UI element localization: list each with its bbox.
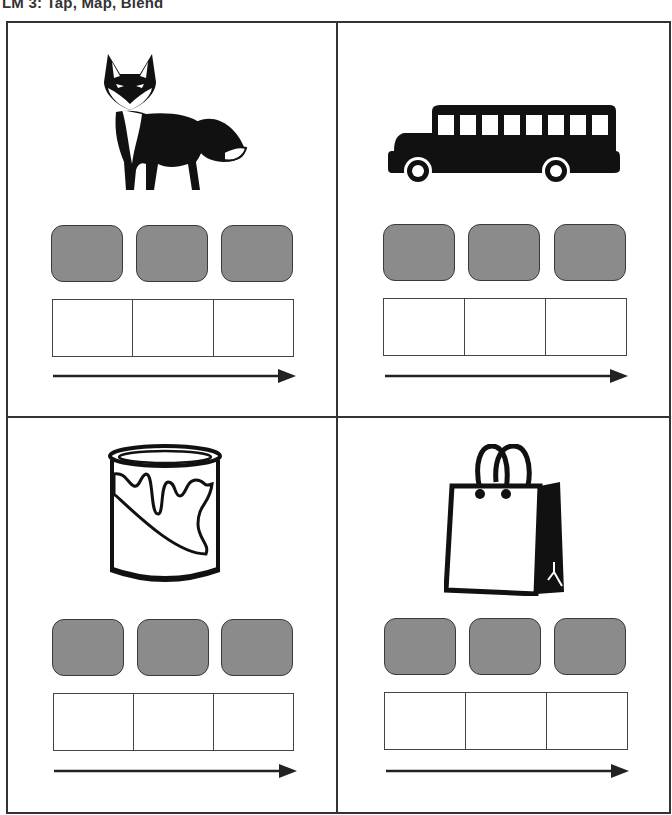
sound-counter-2[interactable] <box>468 224 540 281</box>
sound-box-3[interactable] <box>214 300 293 356</box>
blend-arrow-icon <box>385 764 629 778</box>
page-title: LM 3: Tap, Map, Blend <box>2 0 163 11</box>
sound-box-1[interactable] <box>53 300 133 356</box>
sound-box-3[interactable] <box>214 694 293 750</box>
sound-box-3[interactable] <box>546 299 626 355</box>
sound-box-2[interactable] <box>466 693 547 749</box>
sound-counter-3[interactable] <box>221 619 293 676</box>
sound-counter-2[interactable] <box>469 618 541 675</box>
sound-counter-2[interactable] <box>137 619 209 676</box>
sound-counter-1[interactable] <box>384 618 456 675</box>
sound-boxes <box>384 692 628 750</box>
sound-box-1[interactable] <box>384 299 465 355</box>
blend-arrow-icon <box>384 369 628 383</box>
sound-boxes <box>52 299 294 357</box>
sound-counter-2[interactable] <box>136 225 208 282</box>
sound-counter-1[interactable] <box>51 225 123 282</box>
sound-boxes <box>383 298 627 356</box>
bus-icon <box>388 103 620 185</box>
sound-counter-3[interactable] <box>221 225 293 282</box>
sound-counter-3[interactable] <box>554 618 626 675</box>
sound-box-2[interactable] <box>134 694 214 750</box>
sound-box-1[interactable] <box>54 694 134 750</box>
blend-arrow-icon <box>53 764 297 778</box>
sound-box-2[interactable] <box>133 300 213 356</box>
sound-box-2[interactable] <box>465 299 546 355</box>
sound-counter-1[interactable] <box>383 224 455 281</box>
sound-box-1[interactable] <box>385 693 466 749</box>
sound-counter-3[interactable] <box>554 224 626 281</box>
sound-box-3[interactable] <box>547 693 627 749</box>
fox-icon <box>96 52 251 192</box>
sound-counter-1[interactable] <box>52 619 124 676</box>
horizontal-divider <box>6 416 670 418</box>
shopping-bag-icon <box>444 444 566 596</box>
paint-can-icon <box>106 444 224 584</box>
blend-arrow-icon <box>52 369 296 383</box>
sound-boxes <box>53 693 294 751</box>
